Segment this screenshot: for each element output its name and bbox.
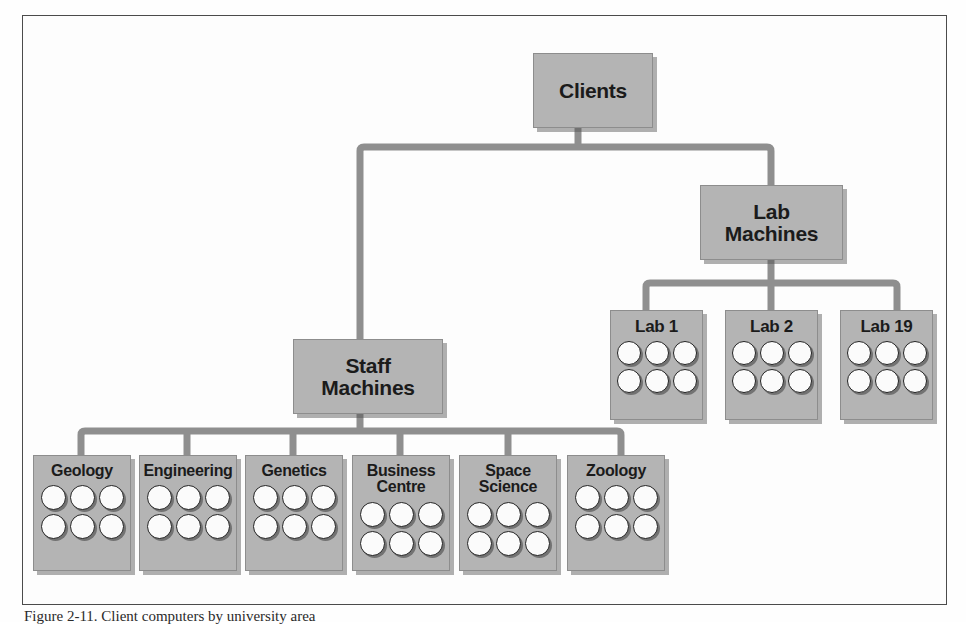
machine-icon xyxy=(604,514,629,539)
machine-icon xyxy=(645,369,669,393)
node-clients-label: Clients xyxy=(559,80,627,101)
machine-icon xyxy=(875,341,899,365)
machine-icon xyxy=(389,502,414,527)
machine-grid xyxy=(847,341,927,393)
node-geology-label: Geology xyxy=(51,463,113,479)
node-lab-machines-label: Lab Machines xyxy=(725,201,818,244)
machine-icon xyxy=(903,341,927,365)
machine-icon xyxy=(467,502,492,527)
machine-icon xyxy=(903,369,927,393)
machine-icon xyxy=(673,369,697,393)
machine-icon xyxy=(617,369,641,393)
node-lab-1-label: Lab 1 xyxy=(635,318,678,335)
node-space-science[interactable]: Space Science xyxy=(459,455,557,571)
machine-icon xyxy=(496,531,521,556)
node-lab-19-label: Lab 19 xyxy=(860,318,912,335)
machine-icon xyxy=(760,369,784,393)
machine-icon xyxy=(205,485,230,510)
node-clients[interactable]: Clients xyxy=(533,53,653,128)
node-space-science-label: Space Science xyxy=(479,463,537,496)
machine-icon xyxy=(633,514,658,539)
machine-icon xyxy=(147,514,172,539)
machine-icon xyxy=(99,514,124,539)
machine-grid xyxy=(575,485,658,539)
machine-icon xyxy=(875,369,899,393)
machine-icon xyxy=(418,502,443,527)
node-lab-2-label: Lab 2 xyxy=(750,318,793,335)
machine-grid xyxy=(147,485,230,539)
machine-icon xyxy=(847,341,871,365)
node-engineering-label: Engineering xyxy=(143,463,232,479)
machine-icon xyxy=(147,485,172,510)
machine-icon xyxy=(645,341,669,365)
machine-icon xyxy=(176,485,201,510)
machine-icon xyxy=(205,514,230,539)
machine-icon xyxy=(467,531,492,556)
machine-icon xyxy=(575,485,600,510)
node-genetics[interactable]: Genetics xyxy=(245,455,343,571)
machine-icon xyxy=(496,502,521,527)
machine-grid xyxy=(467,502,550,556)
machine-icon xyxy=(41,485,66,510)
machine-icon xyxy=(41,514,66,539)
node-staff-machines[interactable]: Staff Machines xyxy=(293,339,443,414)
node-genetics-label: Genetics xyxy=(261,463,326,479)
machine-icon xyxy=(847,369,871,393)
node-zoology[interactable]: Zoology xyxy=(567,455,665,571)
machine-icon xyxy=(418,531,443,556)
machine-icon xyxy=(282,514,307,539)
machine-icon xyxy=(788,341,812,365)
machine-grid xyxy=(732,341,812,393)
node-engineering[interactable]: Engineering xyxy=(139,455,237,571)
machine-icon xyxy=(70,485,95,510)
machine-icon xyxy=(633,485,658,510)
node-lab-19[interactable]: Lab 19 xyxy=(840,310,933,420)
machine-icon xyxy=(311,514,336,539)
node-lab-machines[interactable]: Lab Machines xyxy=(700,185,843,260)
machine-icon xyxy=(253,485,278,510)
machine-icon xyxy=(282,485,307,510)
machine-icon xyxy=(673,341,697,365)
node-business-centre[interactable]: Business Centre xyxy=(352,455,450,571)
node-lab-2[interactable]: Lab 2 xyxy=(725,310,818,420)
machine-icon xyxy=(525,531,550,556)
machine-icon xyxy=(99,485,124,510)
machine-grid xyxy=(41,485,124,539)
machine-icon xyxy=(575,514,600,539)
machine-icon xyxy=(253,514,278,539)
node-business-centre-label: Business Centre xyxy=(367,463,436,496)
machine-icon xyxy=(525,502,550,527)
machine-icon xyxy=(732,369,756,393)
machine-icon xyxy=(311,485,336,510)
machine-icon xyxy=(389,531,414,556)
machine-grid xyxy=(617,341,697,393)
machine-grid xyxy=(360,502,443,556)
machine-icon xyxy=(360,502,385,527)
node-zoology-label: Zoology xyxy=(586,463,646,479)
machine-icon xyxy=(360,531,385,556)
machine-icon xyxy=(176,514,201,539)
node-lab-1[interactable]: Lab 1 xyxy=(610,310,703,420)
machine-grid xyxy=(253,485,336,539)
machine-icon xyxy=(732,341,756,365)
figure-caption: Figure 2-11. Client computers by univers… xyxy=(24,608,315,625)
machine-icon xyxy=(760,341,784,365)
machine-icon xyxy=(788,369,812,393)
node-staff-machines-label: Staff Machines xyxy=(321,355,414,398)
machine-icon xyxy=(604,485,629,510)
machine-icon xyxy=(70,514,95,539)
node-geology[interactable]: Geology xyxy=(33,455,131,571)
machine-icon xyxy=(617,341,641,365)
